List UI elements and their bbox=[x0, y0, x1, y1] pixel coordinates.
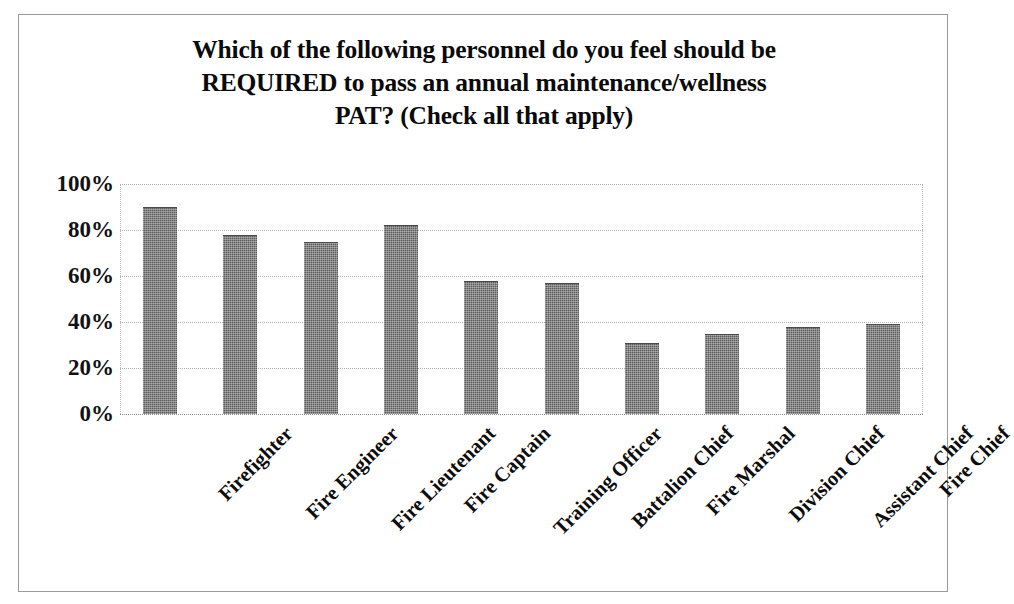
y-axis-tick-label: 0% bbox=[44, 401, 114, 427]
y-axis-tick-label: 20% bbox=[44, 355, 114, 381]
x-axis-tick-label: Firefighter bbox=[214, 422, 298, 506]
y-axis: 100%80%60%40%20%0% bbox=[25, 184, 114, 414]
y-axis-tick-label: 60% bbox=[44, 263, 114, 289]
plot-area bbox=[120, 184, 923, 414]
gridline-80 bbox=[120, 230, 923, 231]
bar bbox=[866, 324, 900, 414]
y-axis-tick-label: 40% bbox=[44, 309, 114, 335]
bar bbox=[464, 281, 498, 414]
y-axis-tick-label: 80% bbox=[44, 217, 114, 243]
bar bbox=[705, 334, 739, 415]
x-axis-tick-label: Fire Engineer bbox=[302, 422, 404, 524]
bar bbox=[384, 225, 418, 414]
bar bbox=[143, 207, 177, 414]
gridline-100 bbox=[120, 184, 923, 185]
chart-figure: Which of the following personnel do you … bbox=[18, 14, 948, 592]
chart-title: Which of the following personnel do you … bbox=[79, 33, 889, 132]
bar bbox=[786, 327, 820, 414]
bar bbox=[545, 283, 579, 414]
x-axis-labels: FirefighterFire EngineerFire LieutenantF… bbox=[120, 414, 923, 589]
bar bbox=[304, 242, 338, 415]
bar bbox=[625, 343, 659, 414]
bar bbox=[223, 235, 257, 414]
y-axis-tick-label: 100% bbox=[44, 171, 114, 197]
